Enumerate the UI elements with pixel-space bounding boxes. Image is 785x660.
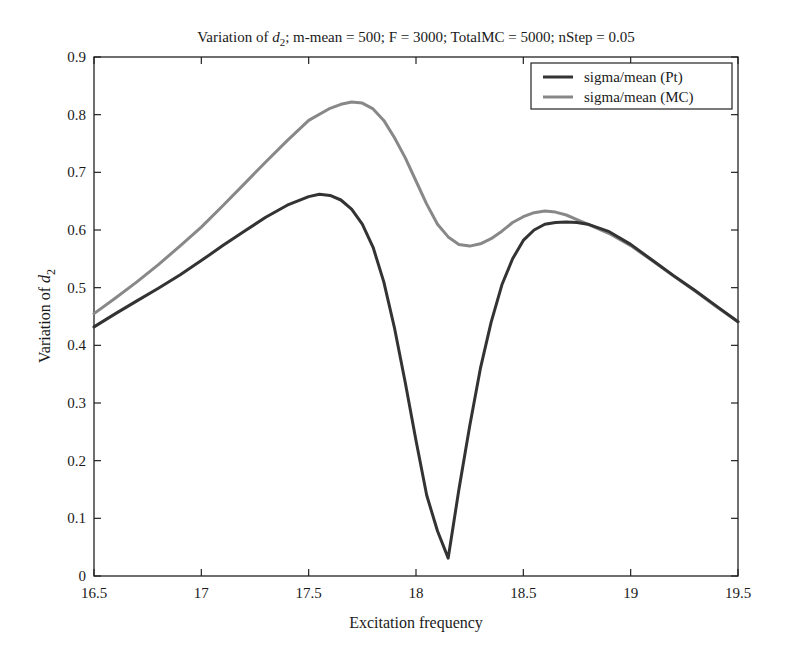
y-tick-label: 0.7 xyxy=(67,164,86,180)
x-tick-label: 17.5 xyxy=(296,585,322,601)
x-tick-label: 19.5 xyxy=(725,585,751,601)
x-tick-label: 19 xyxy=(623,585,638,601)
y-tick-label: 0.9 xyxy=(67,49,86,65)
y-tick-label: 0 xyxy=(79,568,87,584)
y-tick-label: 0.5 xyxy=(67,280,86,296)
x-tick-label: 17 xyxy=(194,585,210,601)
x-tick-label: 18.5 xyxy=(510,585,536,601)
y-tick-label: 0.3 xyxy=(67,395,86,411)
chart: Variation of d2; m-mean = 500; F = 3000;… xyxy=(0,0,785,660)
legend-label-mc: sigma/mean (MC) xyxy=(584,89,694,106)
x-axis-label: Excitation frequency xyxy=(349,614,483,632)
y-tick-label: 0.8 xyxy=(67,107,86,123)
y-tick-label: 0.4 xyxy=(67,337,86,353)
legend-label-pt: sigma/mean (Pt) xyxy=(584,69,683,86)
y-tick-label: 0.6 xyxy=(67,222,86,238)
legend: sigma/mean (Pt) sigma/mean (MC) xyxy=(531,63,732,109)
y-tick-label: 0.2 xyxy=(67,453,86,469)
x-tick-label: 16.5 xyxy=(81,585,107,601)
y-tick-label: 0.1 xyxy=(67,510,86,526)
x-tick-label: 18 xyxy=(409,585,424,601)
